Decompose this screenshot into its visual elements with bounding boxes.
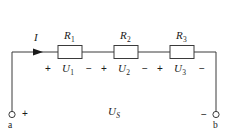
voltage-u1-plus-sign: +: [45, 64, 51, 74]
resistor-r1-body: [58, 46, 82, 59]
resistor-r1-label: R1: [64, 30, 74, 41]
series-resistor-circuit-figure: I R1 R2 R3 + U1 − + U2 − + U3 − US + a −…: [0, 0, 230, 131]
terminal-b-label: b: [213, 121, 218, 131]
voltage-u3-minus-sign: −: [199, 64, 205, 74]
terminal-a-label: a: [8, 121, 12, 131]
voltage-u2-minus-sign: −: [142, 64, 148, 74]
voltage-u2-label: U2: [118, 63, 130, 74]
terminal-a-node-icon: [9, 111, 15, 117]
resistor-r3-label: R3: [176, 30, 186, 41]
resistor-r2-body: [114, 46, 138, 59]
terminal-a-polarity-sign: +: [22, 109, 28, 119]
voltage-u1-minus-sign: −: [86, 64, 92, 74]
resistor-r3-body: [170, 46, 194, 59]
resistor-r2-label: R2: [120, 30, 130, 41]
voltage-u2-plus-sign: +: [101, 64, 107, 74]
voltage-u1-label: U1: [62, 63, 74, 74]
voltage-u3-plus-sign: +: [157, 64, 163, 74]
source-voltage-label: US: [108, 106, 120, 117]
current-arrow-icon: [33, 49, 43, 56]
terminal-b-node-icon: [213, 111, 219, 117]
current-label-i: I: [34, 32, 38, 43]
terminal-b-polarity-sign: −: [201, 110, 207, 120]
voltage-u3-label: U3: [174, 63, 186, 74]
